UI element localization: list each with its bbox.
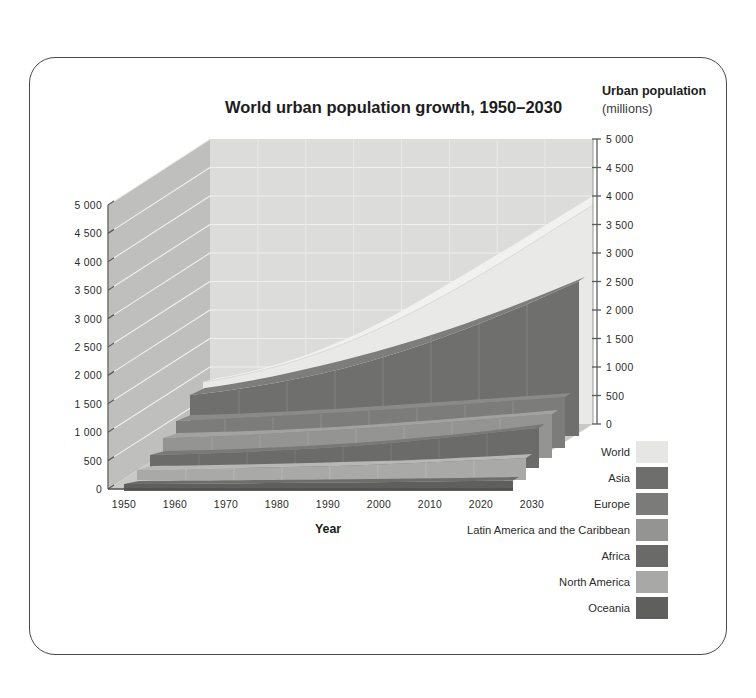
legend-label: World: [601, 446, 630, 458]
legend-swatch-africa: [636, 545, 668, 567]
legend-label: Latin America and the Caribbean: [467, 524, 630, 536]
legend-swatch-north-america: [636, 571, 668, 593]
right-tick-label: 5 000: [606, 134, 634, 145]
legend-label: Europe: [594, 498, 630, 510]
right-axis-subtitle: (millions): [602, 102, 652, 116]
x-tick-label: 1980: [265, 499, 289, 510]
right-axis-title: Urban population: [602, 84, 706, 98]
legend-item-world[interactable]: World: [400, 440, 668, 464]
left-tick-label: 3 500: [74, 285, 102, 296]
right-tick-label: 1 500: [606, 334, 634, 345]
chart-legend: World Asia Europe Latin America and the …: [400, 440, 668, 622]
left-tick-label: 2 500: [74, 342, 102, 353]
left-tick-label: 4 500: [74, 228, 102, 239]
legend-item-north-america[interactable]: North America: [400, 570, 668, 594]
left-tick-label: 4 000: [74, 257, 102, 268]
x-tick-label: 1990: [316, 499, 340, 510]
legend-item-africa[interactable]: Africa: [400, 544, 668, 568]
right-tick-label: 0: [606, 419, 612, 430]
x-tick-label: 1950: [112, 499, 136, 510]
right-tick-label: 500: [606, 391, 624, 402]
right-tick-label: 1 000: [606, 362, 634, 373]
right-tick-label: 2 500: [606, 277, 634, 288]
legend-item-europe[interactable]: Europe: [400, 492, 668, 516]
legend-swatch-europe: [636, 493, 668, 515]
legend-label: North America: [559, 576, 630, 588]
legend-label: Oceania: [588, 602, 630, 614]
left-tick-label: 500: [84, 456, 102, 467]
legend-item-asia[interactable]: Asia: [400, 466, 668, 490]
left-tick-label: 2 000: [74, 370, 102, 381]
left-tick-label: 1 500: [74, 399, 102, 410]
left-tick-label: 5 000: [74, 200, 102, 211]
left-tick-label: 0: [96, 484, 102, 495]
legend-item-oceania[interactable]: Oceania: [400, 596, 668, 620]
left-tick-label: 3 000: [74, 314, 102, 325]
x-axis-title: Year: [315, 522, 341, 536]
left-tick-label: 1 000: [74, 427, 102, 438]
legend-label: Africa: [601, 550, 630, 562]
right-tick-label: 3 000: [606, 248, 634, 259]
right-tick-label: 4 000: [606, 191, 634, 202]
right-tick-label: 3 500: [606, 220, 634, 231]
legend-swatch-latin-america: [636, 519, 668, 541]
legend-item-latin-america[interactable]: Latin America and the Caribbean: [400, 518, 668, 542]
chart-title: World urban population growth, 1950–2030: [225, 98, 562, 116]
x-tick-label: 1970: [214, 499, 238, 510]
right-tick-label: 2 000: [606, 305, 634, 316]
right-tick-label: 4 500: [606, 163, 634, 174]
x-tick-label: 1960: [163, 499, 187, 510]
legend-label: Asia: [608, 472, 630, 484]
legend-swatch-asia: [636, 467, 668, 489]
legend-swatch-world: [636, 441, 668, 463]
x-tick-label: 2000: [367, 499, 391, 510]
legend-swatch-oceania: [636, 597, 668, 619]
